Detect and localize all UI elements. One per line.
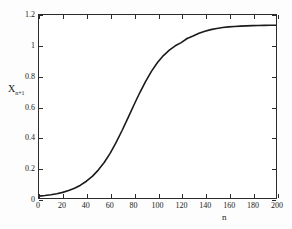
x-tick-mark	[206, 194, 207, 198]
x-tick-label: 60	[106, 201, 114, 210]
y-axis-label: Xn+1	[8, 83, 25, 96]
x-tick-mark	[39, 194, 40, 198]
y-tick-label: 0.4	[25, 133, 35, 142]
x-tick-mark	[111, 15, 112, 19]
y-tick-mark	[39, 108, 43, 109]
x-tick-mark	[159, 15, 160, 19]
y-tick-mark	[39, 169, 43, 170]
x-tick-label: 80	[130, 201, 138, 210]
y-tick-label: 0	[31, 195, 35, 204]
x-tick-label: 120	[175, 201, 187, 210]
x-tick-mark	[254, 15, 255, 19]
y-tick-label: 0.8	[25, 71, 35, 80]
x-tick-mark	[230, 194, 231, 198]
y-tick-label: 1	[31, 40, 35, 49]
x-tick-mark	[135, 194, 136, 198]
y-tick-mark	[39, 138, 43, 139]
y-tick-mark	[272, 46, 276, 47]
x-tick-mark	[278, 15, 279, 19]
curve-polyline	[39, 25, 276, 196]
x-tick-mark	[159, 194, 160, 198]
y-tick-label: 0.2	[25, 164, 35, 173]
x-tick-mark	[278, 194, 279, 198]
y-tick-mark	[272, 108, 276, 109]
y-tick-mark	[272, 169, 276, 170]
x-tick-mark	[111, 194, 112, 198]
x-tick-label: 140	[199, 201, 211, 210]
x-axis-label: n	[222, 212, 227, 222]
y-tick-label: 1.2	[25, 10, 35, 19]
y-tick-mark	[272, 77, 276, 78]
x-tick-mark	[63, 194, 64, 198]
x-tick-mark	[182, 15, 183, 19]
y-tick-label: 0.6	[25, 102, 35, 111]
x-tick-label: 180	[247, 201, 259, 210]
x-tick-mark	[87, 194, 88, 198]
y-tick-mark	[272, 138, 276, 139]
figure-canvas: 02040608010012014016018020000.20.40.60.8…	[0, 0, 292, 229]
y-axis-label-subscript: n+1	[15, 90, 24, 96]
y-tick-mark	[272, 15, 276, 16]
x-tick-label: 40	[82, 201, 90, 210]
x-tick-mark	[87, 15, 88, 19]
x-tick-label: 200	[271, 201, 283, 210]
x-tick-mark	[254, 194, 255, 198]
x-tick-label: 0	[36, 201, 40, 210]
x-tick-mark	[135, 15, 136, 19]
y-tick-mark	[39, 77, 43, 78]
y-tick-mark	[39, 15, 43, 16]
x-tick-mark	[230, 15, 231, 19]
x-tick-label: 100	[152, 201, 164, 210]
plot-area	[38, 14, 277, 199]
y-tick-mark	[39, 46, 43, 47]
x-tick-label: 20	[58, 201, 66, 210]
x-tick-mark	[63, 15, 64, 19]
x-tick-label: 160	[223, 201, 235, 210]
data-curve	[39, 15, 276, 198]
x-tick-mark	[206, 15, 207, 19]
x-tick-mark	[182, 194, 183, 198]
